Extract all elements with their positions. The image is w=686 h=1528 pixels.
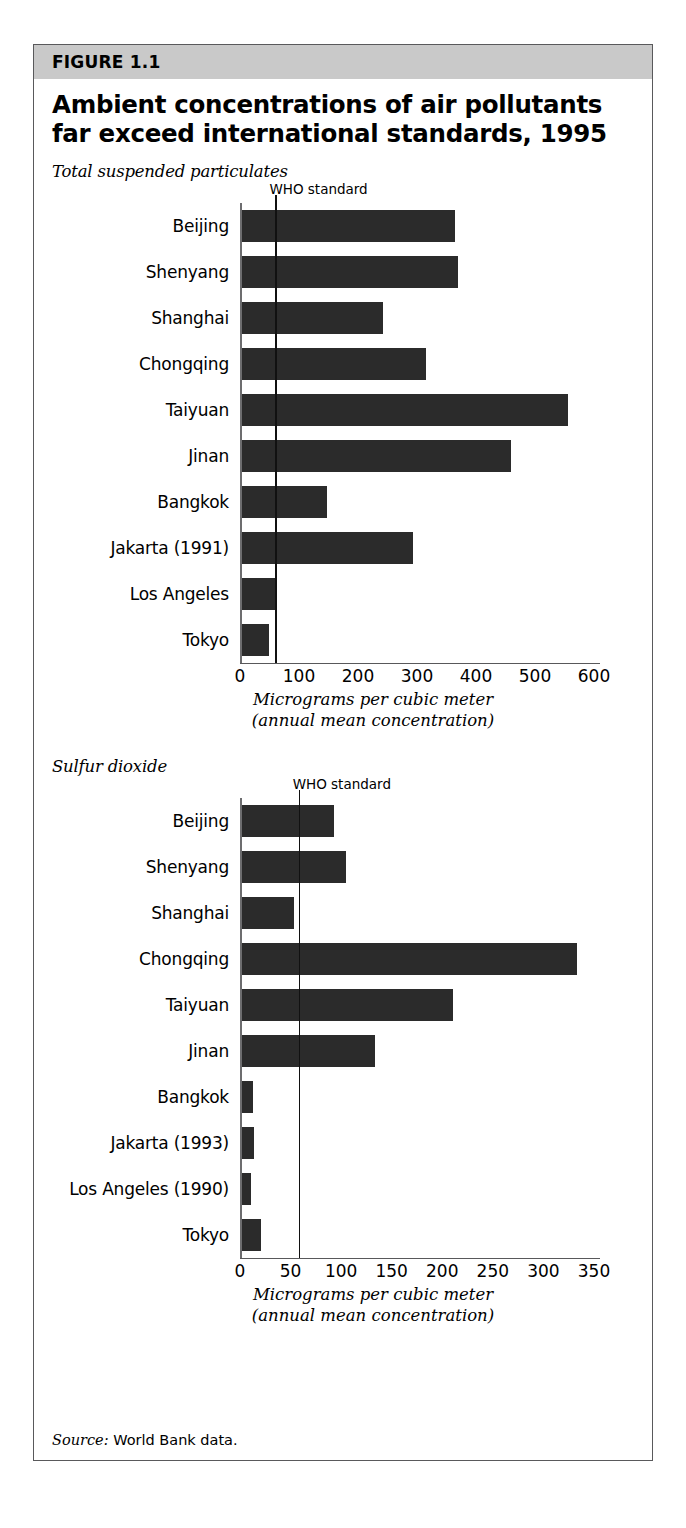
bar-track xyxy=(240,525,634,571)
bar-row: Taiyuan xyxy=(52,387,634,433)
bar xyxy=(240,805,334,837)
x-tick-label: 100 xyxy=(325,1261,357,1281)
bar-row: Los Angeles xyxy=(52,571,634,617)
x-axis-caption-line-1: Micrograms per cubic meter xyxy=(112,1284,634,1305)
x-tick-label: 0 xyxy=(235,1261,246,1281)
bar-track xyxy=(240,479,634,525)
bar-category-label: Bangkok xyxy=(52,492,240,512)
bar-track xyxy=(240,387,634,433)
bar-category-label: Bangkok xyxy=(52,1087,240,1107)
y-axis-line-tsp xyxy=(240,203,242,663)
bar-row: Shanghai xyxy=(52,890,634,936)
bar-row: Chongqing xyxy=(52,936,634,982)
bar xyxy=(240,394,568,426)
bar-category-label: Jinan xyxy=(52,1041,240,1061)
bar-category-label: Jakarta (1991) xyxy=(52,538,240,558)
bar-row: Bangkok xyxy=(52,1074,634,1120)
bar-category-label: Tokyo xyxy=(52,1225,240,1245)
x-tick-label: 100 xyxy=(283,666,315,686)
x-tick-label: 200 xyxy=(342,666,374,686)
bar xyxy=(240,348,426,380)
bar-row: Los Angeles (1990) xyxy=(52,1166,634,1212)
bar-row: Shenyang xyxy=(52,249,634,295)
x-tick-label: 150 xyxy=(375,1261,407,1281)
bar xyxy=(240,578,276,610)
y-axis-line-so2 xyxy=(240,798,242,1258)
x-axis-ticks-so2: 050100150200250300350 xyxy=(52,1258,634,1284)
bar-row: Chongqing xyxy=(52,341,634,387)
bar xyxy=(240,1173,251,1205)
who-standard-line-tsp xyxy=(275,195,277,663)
x-tick-label: 50 xyxy=(280,1261,302,1281)
bar-row: Tokyo xyxy=(52,617,634,663)
bar-row: Jakarta (1993) xyxy=(52,1120,634,1166)
x-tick-label: 400 xyxy=(460,666,492,686)
x-axis-caption-so2: Micrograms per cubic meter (annual mean … xyxy=(52,1284,634,1326)
bar-row: Shanghai xyxy=(52,295,634,341)
source-text: World Bank data. xyxy=(113,1432,237,1448)
bar-category-label: Jinan xyxy=(52,446,240,466)
bar xyxy=(240,1127,254,1159)
who-standard-line-so2 xyxy=(299,790,301,1258)
x-tick-label: 300 xyxy=(401,666,433,686)
bar-category-label: Shenyang xyxy=(52,857,240,877)
chart-total-suspended-particulates: WHO standard BeijingShenyangShanghaiChon… xyxy=(52,181,634,731)
x-tick-label: 300 xyxy=(527,1261,559,1281)
bar-category-label: Tokyo xyxy=(52,630,240,650)
bar-track xyxy=(240,617,634,663)
bar-row: Tokyo xyxy=(52,1212,634,1258)
x-tick-label: 200 xyxy=(426,1261,458,1281)
bar xyxy=(240,851,346,883)
bar xyxy=(240,1081,253,1113)
bar xyxy=(240,532,413,564)
bar-row: Jinan xyxy=(52,433,634,479)
bar xyxy=(240,440,511,472)
bar-row: Beijing xyxy=(52,203,634,249)
chart-sulfur-dioxide: WHO standard BeijingShenyangShanghaiChon… xyxy=(52,776,634,1326)
bar xyxy=(240,1219,261,1251)
bar-track xyxy=(240,341,634,387)
figure-panel: FIGURE 1.1 Ambient concentrations of air… xyxy=(33,44,653,1461)
bar xyxy=(240,302,383,334)
bar xyxy=(240,1035,375,1067)
bar xyxy=(240,624,269,656)
bar-rows-tsp: BeijingShenyangShanghaiChongqingTaiyuanJ… xyxy=(52,203,634,663)
x-axis-caption-line-2: (annual mean concentration) xyxy=(112,1305,634,1326)
bar-category-label: Beijing xyxy=(52,216,240,236)
x-tick-label: 600 xyxy=(578,666,610,686)
bar-rows-so2: BeijingShenyangShanghaiChongqingTaiyuanJ… xyxy=(52,798,634,1258)
bar-row: Jinan xyxy=(52,1028,634,1074)
bar-category-label: Shenyang xyxy=(52,262,240,282)
figure-title: Ambient concentrations of air pollutants… xyxy=(34,79,652,149)
x-tick-label: 250 xyxy=(477,1261,509,1281)
bar-row: Beijing xyxy=(52,798,634,844)
bar-category-label: Chongqing xyxy=(52,949,240,969)
bar xyxy=(240,486,327,518)
bar-category-label: Shanghai xyxy=(52,903,240,923)
panel-caption-so2: Sulfur dioxide xyxy=(34,731,652,776)
x-tick-label: 350 xyxy=(578,1261,610,1281)
bar xyxy=(240,256,458,288)
bar-track xyxy=(240,571,634,617)
bar-row: Shenyang xyxy=(52,844,634,890)
bar xyxy=(240,943,577,975)
bar-category-label: Jakarta (1993) xyxy=(52,1133,240,1153)
bar-track xyxy=(240,295,634,341)
x-axis-caption-line-1: Micrograms per cubic meter xyxy=(112,689,634,710)
bar-track xyxy=(240,433,634,479)
bar-category-label: Beijing xyxy=(52,811,240,831)
figure-number-band: FIGURE 1.1 xyxy=(34,45,652,79)
x-tick-label: 0 xyxy=(235,666,246,686)
bar-category-label: Shanghai xyxy=(52,308,240,328)
source-prefix: Source: xyxy=(52,1432,109,1448)
bar xyxy=(240,897,294,929)
x-axis-caption-line-2: (annual mean concentration) xyxy=(112,710,634,731)
bar-category-label: Los Angeles (1990) xyxy=(52,1179,240,1199)
x-axis-ticks-tsp: 0100200300400500600 xyxy=(52,663,634,689)
bar-row: Taiyuan xyxy=(52,982,634,1028)
bar-category-label: Chongqing xyxy=(52,354,240,374)
bar xyxy=(240,210,455,242)
bar-category-label: Taiyuan xyxy=(52,400,240,420)
bar xyxy=(240,989,453,1021)
x-axis-caption-tsp: Micrograms per cubic meter (annual mean … xyxy=(52,689,634,731)
